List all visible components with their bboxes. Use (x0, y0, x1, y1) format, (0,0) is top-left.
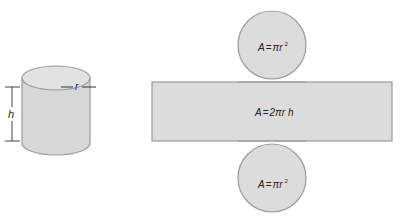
cylinder-top (22, 66, 90, 90)
net-top-circle: A=πr2 (238, 11, 306, 79)
rectangle-formula: A=2πr h (254, 107, 294, 118)
net-rectangle: A=2πr h (152, 82, 392, 141)
cylinder: r h (5, 66, 96, 155)
bottom-circle-shape (238, 144, 306, 212)
cylinder-net-diagram: r h A=πr2 A=2πr h A=πr2 (0, 0, 402, 224)
height-label: h (8, 108, 14, 120)
net-bottom-circle: A=πr2 (238, 144, 306, 212)
